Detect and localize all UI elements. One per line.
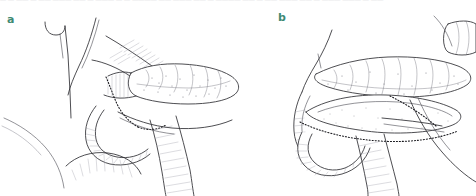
opened-pancreatic-duct-b [306, 95, 461, 133]
pancreas-upper-b [315, 57, 471, 97]
panel-a-illustration [0, 0, 258, 196]
pancreatic-tail-b [444, 21, 476, 55]
omentum-a [2, 118, 64, 188]
pancreas-a [128, 64, 238, 104]
mesenteric-vessel-a [118, 112, 232, 129]
figure-root: — — —— — —— ——— —— — ——— — — ———— —— ———… [0, 0, 476, 196]
panel-label-a: a [7, 13, 15, 26]
panel-b-illustration [258, 0, 476, 196]
panel-label-b: b [278, 11, 286, 24]
panel-b: b [258, 0, 476, 196]
jejunal-limb-b [356, 134, 399, 196]
vessel-a [68, 18, 99, 95]
common-bile-duct-a [45, 22, 71, 118]
mesenteric-vessel-a2 [120, 118, 174, 134]
hatching-neck-a [108, 73, 128, 97]
duodenum-a [85, 106, 150, 165]
panel-a: a [0, 0, 258, 196]
